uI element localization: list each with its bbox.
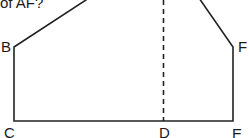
vertex-label-b: B xyxy=(1,39,11,55)
geometry-figure: of AF? B F C D E xyxy=(0,0,249,138)
vertex-label-f: F xyxy=(238,39,247,55)
figure-drawing xyxy=(0,0,249,138)
vertex-label-e: E xyxy=(232,126,242,138)
polygon-outline xyxy=(14,0,233,121)
vertex-label-d: D xyxy=(159,125,170,138)
question-text: of AF? xyxy=(0,0,43,12)
vertex-label-c: C xyxy=(4,125,15,138)
